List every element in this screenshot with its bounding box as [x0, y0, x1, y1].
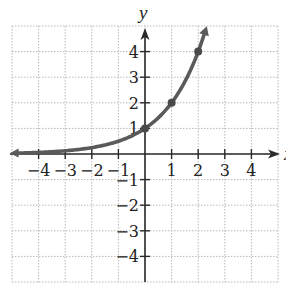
y-tick-label: 3	[129, 68, 139, 87]
y-axis-label: y	[137, 2, 148, 23]
y-tick-label: 2	[129, 94, 139, 113]
y-tick-label: −2	[115, 196, 139, 215]
x-tick-label: −4	[27, 161, 51, 180]
x-tick-label: −2	[80, 161, 104, 180]
curve	[10, 26, 209, 157]
x-tick-label: 2	[193, 161, 203, 180]
y-tick-label: −3	[115, 222, 139, 241]
x-tick-label: 1	[167, 161, 177, 180]
exponential-graph: y x −4−3−2−112344321−1−2−3−4	[0, 0, 286, 288]
y-tick-label: 4	[129, 43, 139, 62]
x-axis-label: x	[283, 143, 286, 164]
x-tick-label: −3	[53, 161, 77, 180]
data-point	[194, 48, 202, 56]
curve-arrow-left-icon	[10, 149, 19, 158]
data-point	[141, 124, 149, 132]
x-tick-label: 4	[246, 161, 256, 180]
exponential-curve	[19, 35, 204, 153]
axes: y x	[10, 2, 286, 282]
y-tick-label: −4	[115, 247, 139, 266]
x-tick-label: 3	[220, 161, 230, 180]
y-tick-label: −1	[115, 171, 139, 190]
data-point	[168, 99, 176, 107]
